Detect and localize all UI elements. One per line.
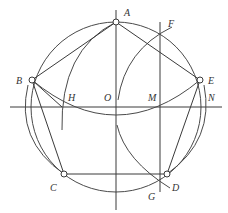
edge-a-b (32, 22, 116, 80)
label-b: B (16, 75, 22, 86)
label-h: H (67, 92, 76, 103)
edge-a-e (116, 22, 200, 80)
vertex-b (29, 77, 35, 83)
vertex-e (197, 77, 203, 83)
label-c: C (50, 182, 57, 193)
vertex-c (61, 171, 67, 177)
pentagon-construction-diagram: A B E C D F G H O M N (0, 0, 228, 213)
label-n: N (207, 92, 216, 103)
vertex-d (164, 171, 170, 177)
label-d: D (171, 182, 180, 193)
vertex-a (113, 19, 119, 25)
label-a: A (123, 7, 131, 18)
label-f: F (167, 18, 175, 29)
label-e: E (207, 75, 214, 86)
arc-a-to-h (62, 22, 116, 130)
label-o: O (104, 92, 111, 103)
label-m: M (147, 92, 157, 103)
label-g: G (148, 191, 155, 202)
arc-f-to-o (118, 27, 172, 100)
